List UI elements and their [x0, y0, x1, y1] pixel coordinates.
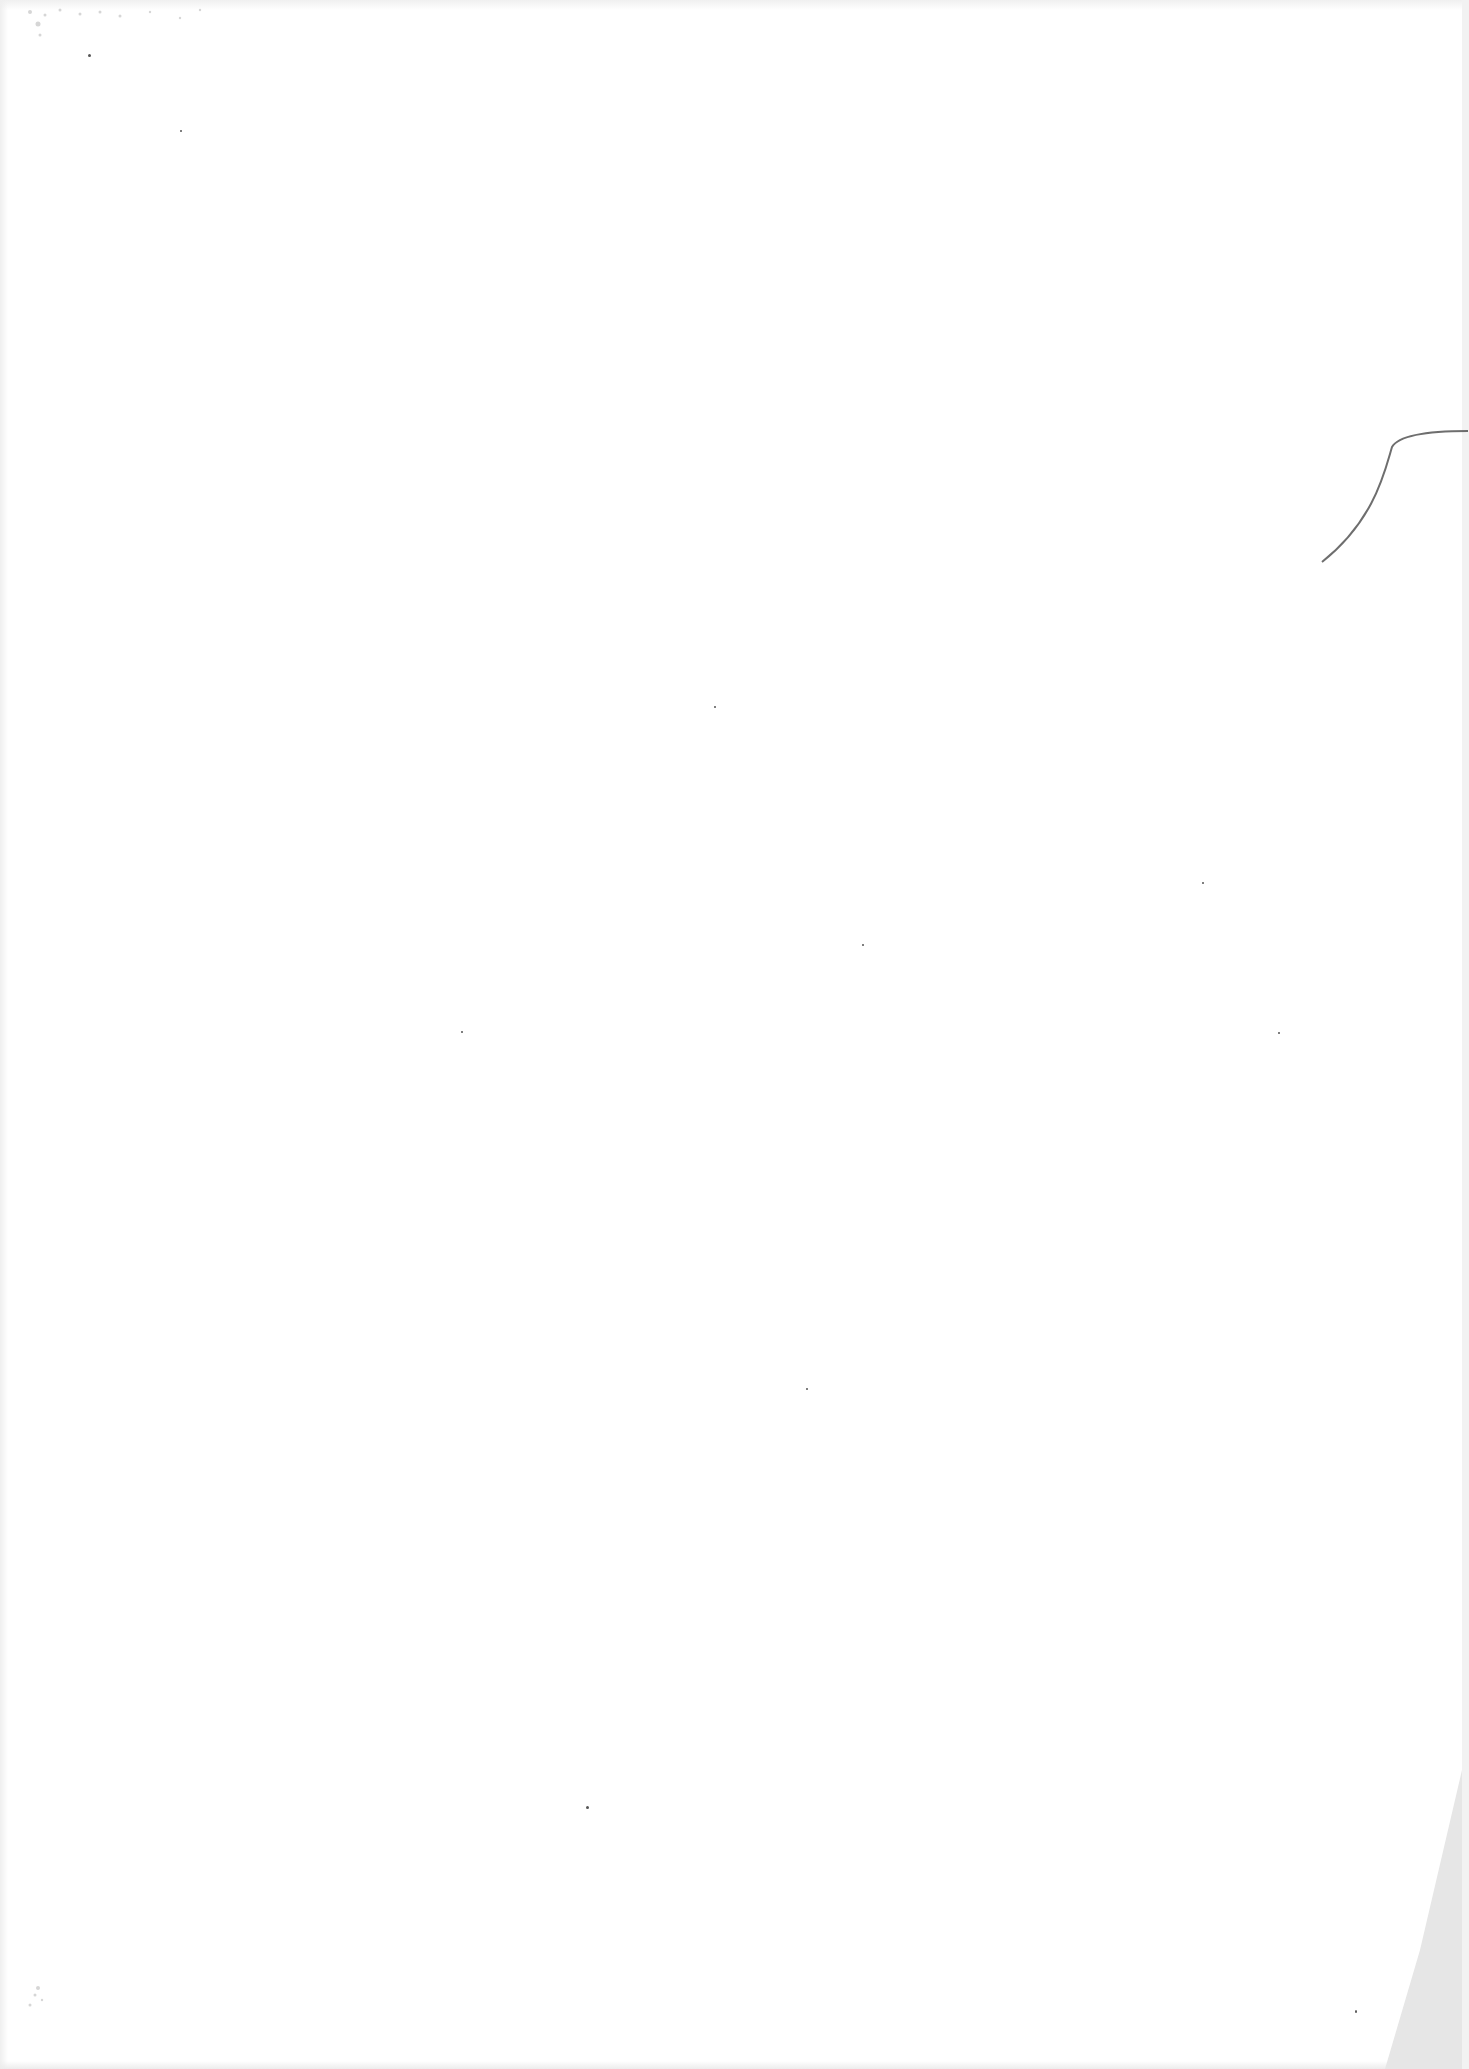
scan-speck	[1278, 1032, 1280, 1034]
page-edge-top	[0, 0, 1469, 10]
scan-speck	[862, 944, 864, 946]
scan-speck	[806, 1388, 808, 1390]
scan-speck	[461, 1031, 463, 1033]
scan-speck	[180, 130, 182, 132]
scan-background-corner	[0, 0, 1469, 2069]
page-edge-left	[0, 0, 8, 2069]
blank-scanned-page	[0, 0, 1469, 2069]
page-edge-bottom	[0, 2061, 1469, 2069]
scan-speck	[714, 706, 716, 708]
scan-speck	[88, 54, 91, 57]
scan-speck	[586, 1806, 589, 1809]
fiber-mark	[1322, 431, 1468, 562]
scan-speck	[1202, 882, 1204, 884]
scan-speck	[1355, 2010, 1357, 2013]
